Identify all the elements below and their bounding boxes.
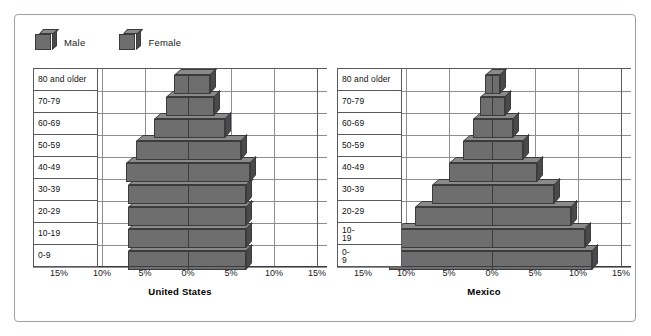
age-group-row: 50-59 <box>34 135 98 157</box>
age-group-row: 50-59 <box>338 135 402 157</box>
x-tick-label: 15% <box>308 268 326 278</box>
x-tick-label: 15% <box>50 268 68 278</box>
age-group-label: 20-29 <box>342 207 364 216</box>
bar-midline <box>492 229 493 248</box>
age-group-row: 80 and older <box>338 69 402 91</box>
x-tick-label: 5% <box>528 268 541 278</box>
bar-midline <box>188 207 189 226</box>
age-group-row: 10-19 <box>338 223 402 245</box>
cube-icon <box>35 29 57 55</box>
age-group-row: 0-9 <box>338 245 402 267</box>
bar-midline <box>188 163 189 182</box>
x-tick-label: 5% <box>224 268 237 278</box>
age-group-row: 40-49 <box>34 157 98 179</box>
age-group-row: 60-69 <box>34 113 98 135</box>
x-axis-ticks: 15%10%5%0%5%10%15% <box>337 268 631 282</box>
x-tick-label: 5% <box>138 268 151 278</box>
chart-mexico: 80 and older70-7960-6950-5940-4930-3920-… <box>337 68 631 266</box>
age-group-label: 20-29 <box>38 207 60 216</box>
chart-title-mexico: Mexico <box>337 286 631 297</box>
bar-midline <box>492 185 493 204</box>
age-group-label: 40-49 <box>342 163 364 172</box>
age-label-column: 80 and older70-7960-6950-5940-4930-3920-… <box>337 68 401 266</box>
legend-label-female: Female <box>148 37 181 48</box>
age-group-row: 70-79 <box>338 91 402 113</box>
x-tick-label: 15% <box>354 268 372 278</box>
age-group-row: 10-19 <box>34 223 98 245</box>
bar-midline <box>188 185 189 204</box>
age-group-label: 60-69 <box>342 119 364 128</box>
age-group-row: 0-9 <box>34 245 98 267</box>
legend-item-male: Male <box>35 29 85 55</box>
x-tick-label: 0% <box>181 268 194 278</box>
bar-midline <box>492 207 493 226</box>
x-tick-label: 10% <box>397 268 415 278</box>
age-group-row: 30-39 <box>34 179 98 201</box>
age-group-label: 70-79 <box>38 97 60 106</box>
bar-midline <box>188 229 189 248</box>
bar-front-face <box>154 119 225 138</box>
age-group-label: 10-19 <box>38 229 60 238</box>
age-group-label: 9 <box>342 256 347 264</box>
cube-icon <box>119 29 141 55</box>
age-group-label: 0-9 <box>38 251 51 260</box>
age-label-column: 80 and older70-7960-6950-5940-4930-3920-… <box>33 68 97 266</box>
bar-front-face <box>128 229 246 248</box>
age-group-label: 19 <box>342 234 352 242</box>
x-tick-label: 10% <box>93 268 111 278</box>
bar-midline <box>188 75 189 94</box>
bar-midline <box>188 141 189 160</box>
bar-front-face <box>174 75 210 94</box>
bar-midline <box>188 97 189 116</box>
age-group-row: 80 and older <box>34 69 98 91</box>
bar-midline <box>188 119 189 138</box>
bar-midline <box>492 141 493 160</box>
pyramid-bar <box>174 69 210 88</box>
bar-midline <box>492 75 493 94</box>
bar-midline <box>492 163 493 182</box>
x-tick-label: 0% <box>485 268 498 278</box>
legend-item-female: Female <box>119 29 181 55</box>
age-group-label: 30-39 <box>38 185 60 194</box>
x-tick-label: 5% <box>442 268 455 278</box>
x-tick-label: 15% <box>612 268 630 278</box>
chart-united-states: 80 and older70-7960-6950-5940-4930-3920-… <box>33 68 327 266</box>
plot-area-mexico: 80 and older70-7960-6950-5940-4930-3920-… <box>337 68 631 266</box>
age-group-row: 60-69 <box>338 113 402 135</box>
legend: Male Female <box>35 29 181 55</box>
age-group-label: 40-49 <box>38 163 60 172</box>
chart-title-united-states: United States <box>33 286 327 297</box>
age-group-label: 80 and older <box>38 75 86 84</box>
chart-frame: Male Female 80 and older70-7960-6950-594… <box>14 14 636 322</box>
x-axis-ticks: 15%10%5%0%5%10%15% <box>33 268 327 282</box>
x-tick-label: 10% <box>265 268 283 278</box>
bar-midline <box>492 119 493 138</box>
age-group-label: 70-79 <box>342 97 364 106</box>
age-group-row: 20-29 <box>34 201 98 223</box>
x-tick-label: 10% <box>569 268 587 278</box>
legend-label-male: Male <box>64 37 85 48</box>
age-group-row: 30-39 <box>338 179 402 201</box>
age-group-label: 30-39 <box>342 185 364 194</box>
age-group-label: 60-69 <box>38 119 60 128</box>
age-group-row: 70-79 <box>34 91 98 113</box>
pyramid-bar <box>485 69 500 88</box>
bar-front-face <box>166 97 214 116</box>
age-group-label: 50-59 <box>342 141 364 150</box>
age-group-row: 20-29 <box>338 201 402 223</box>
age-group-label: 80 and older <box>342 75 390 84</box>
age-group-label: 50-59 <box>38 141 60 150</box>
bar-midline <box>492 97 493 116</box>
plot-area-united-states: 80 and older70-7960-6950-5940-4930-3920-… <box>33 68 327 266</box>
age-group-row: 40-49 <box>338 157 402 179</box>
